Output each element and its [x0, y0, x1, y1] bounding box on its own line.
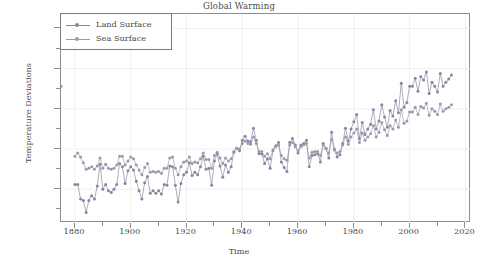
data-point [224, 156, 227, 159]
data-point [319, 160, 322, 163]
data-point [230, 165, 233, 168]
data-point [411, 111, 414, 114]
data-point [442, 110, 445, 113]
data-point [442, 85, 445, 88]
data-point [444, 81, 447, 84]
data-point [104, 163, 107, 166]
data-point [280, 154, 283, 157]
data-point [101, 167, 104, 170]
data-point [249, 143, 252, 146]
data-point [115, 164, 118, 167]
data-point [171, 165, 174, 168]
data-point [285, 159, 288, 162]
series-land-surface [61, 25, 453, 214]
chart-legend[interactable]: Land Surface Sea Surface [60, 13, 172, 50]
data-point [288, 144, 291, 147]
data-point [224, 164, 227, 167]
data-point [386, 126, 389, 129]
data-point [185, 160, 188, 163]
data-point [121, 155, 124, 158]
data-point [210, 184, 213, 187]
data-point [414, 106, 417, 109]
data-point [216, 151, 219, 154]
legend-label-sea-surface: Sea Surface [96, 33, 146, 43]
data-point [110, 168, 113, 171]
data-point [313, 150, 316, 153]
data-point [235, 147, 238, 150]
data-point [165, 167, 168, 170]
x-axis-tick-label: 1960 [267, 226, 327, 236]
data-point [347, 143, 350, 146]
data-point [299, 145, 302, 148]
data-point [177, 173, 180, 176]
data-point [227, 171, 230, 174]
data-point [316, 150, 319, 153]
data-point [450, 74, 453, 77]
data-point [99, 156, 102, 159]
data-point [182, 173, 185, 176]
data-point [417, 113, 420, 116]
data-point [165, 184, 168, 187]
data-point [330, 138, 333, 141]
data-point [82, 199, 85, 202]
legend-label-land-surface: Land Surface [96, 19, 152, 29]
data-point [394, 119, 397, 122]
data-point [394, 99, 397, 102]
legend-item-land-surface[interactable]: Land Surface [61, 18, 173, 33]
data-point [82, 161, 85, 164]
data-point [193, 171, 196, 174]
data-point [199, 165, 202, 168]
data-point [380, 121, 383, 124]
data-point [73, 183, 76, 186]
data-point [255, 142, 258, 145]
data-point [364, 139, 367, 142]
data-point [193, 160, 196, 163]
data-point [308, 156, 311, 159]
data-point [76, 183, 79, 186]
data-point [230, 157, 233, 160]
data-point [436, 113, 439, 116]
data-point [157, 170, 160, 173]
data-point [129, 165, 132, 168]
data-point [366, 127, 369, 130]
data-point [386, 134, 389, 137]
data-point [202, 152, 205, 155]
data-point [191, 162, 194, 165]
data-point [107, 189, 110, 192]
legend-item-sea-surface[interactable]: Sea Surface [61, 32, 173, 47]
data-point [375, 135, 378, 138]
data-point [126, 169, 129, 172]
data-point [205, 158, 208, 161]
data-point [428, 92, 431, 95]
data-point [324, 147, 327, 150]
data-point [439, 103, 442, 106]
data-point [154, 192, 157, 195]
data-point [397, 126, 400, 129]
data-point [444, 107, 447, 110]
data-point [96, 164, 99, 167]
data-point [322, 144, 325, 147]
data-point [140, 173, 143, 176]
data-point [417, 90, 420, 93]
data-point [118, 162, 121, 165]
data-point [405, 101, 408, 104]
data-point [143, 181, 146, 184]
data-point [405, 119, 408, 122]
data-point [85, 211, 88, 214]
data-point [319, 154, 322, 157]
data-point [87, 199, 90, 202]
data-point [361, 121, 364, 124]
data-point [135, 164, 138, 167]
data-point [232, 150, 235, 153]
data-point [366, 135, 369, 138]
data-point [168, 164, 171, 167]
data-point [283, 157, 286, 160]
data-point [280, 160, 283, 163]
data-point [132, 168, 135, 171]
data-point [76, 152, 79, 155]
data-point [450, 103, 453, 106]
data-point [447, 106, 450, 109]
data-point [377, 119, 380, 122]
x-axis-tick-label: 1880 [44, 226, 104, 236]
data-point [93, 168, 96, 171]
